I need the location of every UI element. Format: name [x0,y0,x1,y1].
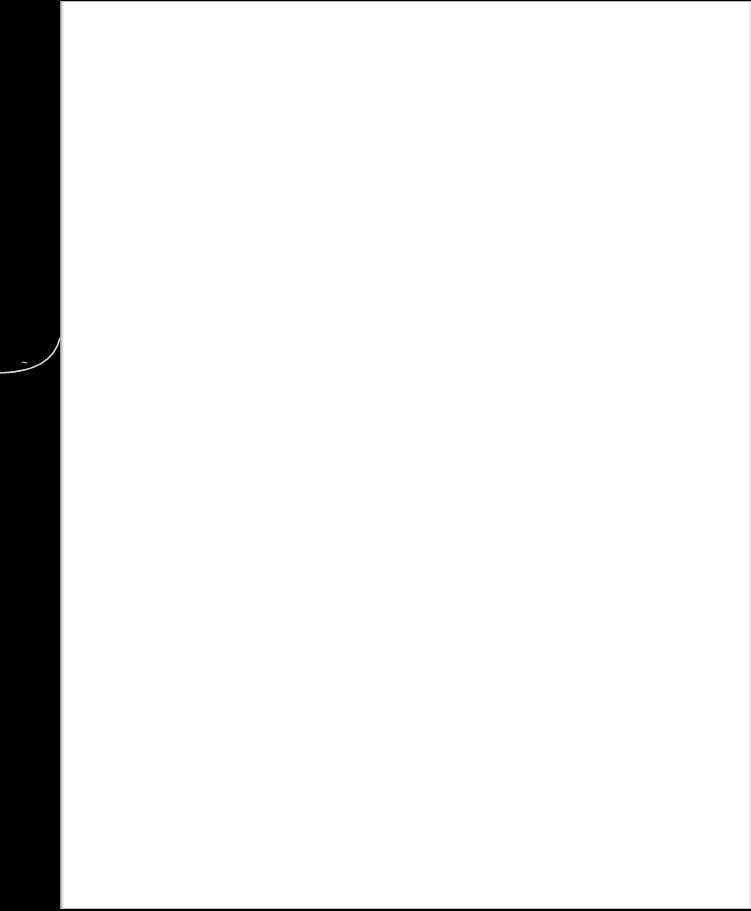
blank-page [60,1,751,909]
page-edge-shadow [61,2,64,908]
